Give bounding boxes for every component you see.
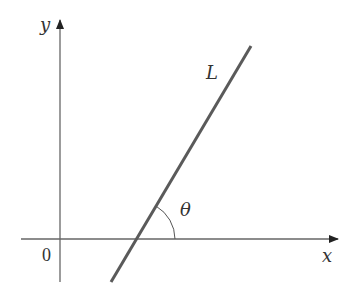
angle-label-theta: θ xyxy=(180,199,191,220)
x-axis-label: x xyxy=(322,245,332,266)
diagram-canvas: y x 0 L θ xyxy=(0,0,351,295)
line-L xyxy=(111,46,251,282)
y-axis-label: y xyxy=(39,14,51,35)
origin-label: 0 xyxy=(42,245,51,265)
angle-arc-theta xyxy=(156,206,175,239)
line-label-L: L xyxy=(205,62,218,83)
